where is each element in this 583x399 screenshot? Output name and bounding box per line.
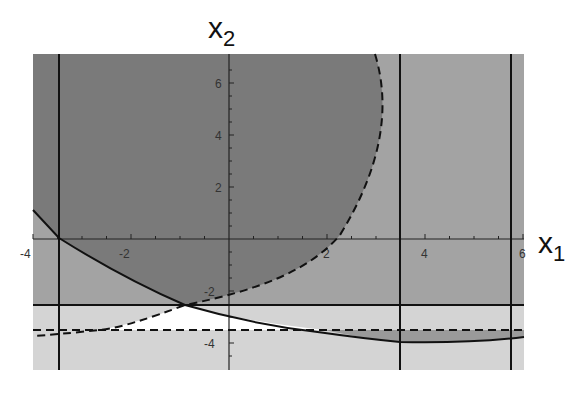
y-tick-label: -4: [204, 337, 215, 351]
x-tick-label: -4: [20, 247, 31, 261]
x-tick-label: 4: [421, 247, 428, 261]
y-tick-label: 6: [215, 77, 222, 91]
y-tick-label: 2: [215, 181, 222, 195]
x-tick-label: -2: [119, 247, 130, 261]
x-tick-label: 6: [519, 247, 526, 261]
y-tick-label: 4: [215, 129, 222, 143]
feasible-region-plot: -4 -2 2 4 6 6 4 2 -2 -4 x2 x1: [0, 0, 583, 399]
x2-axis-label: x2: [208, 11, 235, 51]
x1-axis-label: x1: [538, 226, 565, 266]
y-tick-label: -2: [204, 285, 215, 299]
